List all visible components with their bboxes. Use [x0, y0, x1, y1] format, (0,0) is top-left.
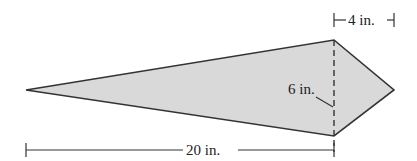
- width-dimension: 4 in.: [334, 12, 394, 28]
- width-label: 4 in.: [348, 12, 375, 28]
- height-label: 6 in.: [288, 81, 315, 97]
- length-dimension: 20 in.: [26, 142, 334, 158]
- kite-shape: [26, 40, 394, 136]
- kite-diagram: 20 in. 4 in. 6 in.: [0, 0, 417, 161]
- length-label: 20 in.: [186, 142, 220, 158]
